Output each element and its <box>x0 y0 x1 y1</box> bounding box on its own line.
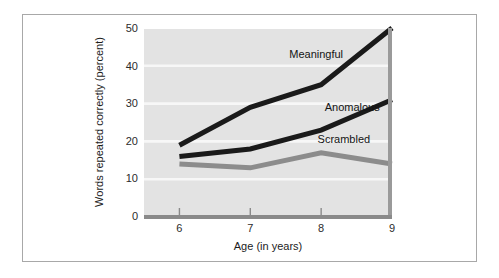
y-tick-label-20: 20 <box>126 135 138 147</box>
x-tick-label-6: 6 <box>176 222 182 234</box>
y-tick-label-30: 30 <box>126 97 138 109</box>
x-tick-label-8: 8 <box>318 222 324 234</box>
series-label-scrambled: Scrambled <box>318 133 371 145</box>
x-axis-tick-labels: 6 7 8 9 <box>176 222 395 234</box>
y-tick-label-50: 50 <box>126 22 138 34</box>
x-tick-label-9: 9 <box>389 222 395 234</box>
y-axis-title: Words repeated correctly (percent) <box>93 37 105 207</box>
y-tick-label-10: 10 <box>126 172 138 184</box>
series-label-meaningful: Meaningful <box>289 48 343 60</box>
figure-root: 50 40 30 20 10 0 Words repeated correctl… <box>0 0 499 278</box>
y-axis-tick-labels: 50 40 30 20 10 0 <box>126 22 138 222</box>
x-tick-label-7: 7 <box>247 222 253 234</box>
line-chart: 50 40 30 20 10 0 Words repeated correctl… <box>0 0 499 278</box>
y-tick-label-0: 0 <box>132 210 138 222</box>
x-axis-title: Age (in years) <box>234 240 302 252</box>
y-tick-label-40: 40 <box>126 60 138 72</box>
series-label-anomalous: Anomalous <box>325 101 381 113</box>
